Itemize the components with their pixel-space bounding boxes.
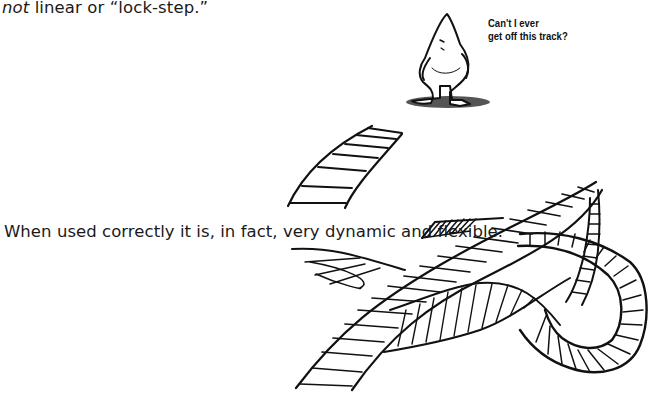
railroad-illustration [0,0,662,401]
cartoon-figure-icon [406,14,490,108]
railroad-tracks-icon [288,126,647,390]
